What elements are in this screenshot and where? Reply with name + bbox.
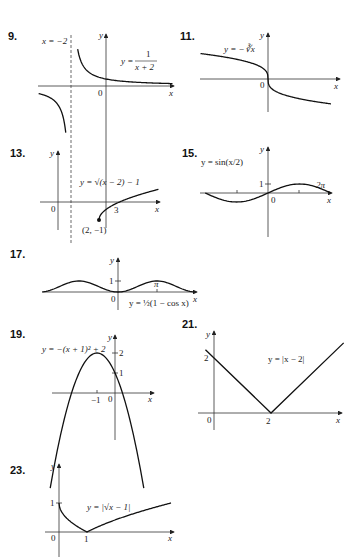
x-tick-label: 1 [84, 534, 89, 544]
x-axis-label: x [326, 195, 331, 205]
x-axis-label: x [168, 88, 173, 98]
x-axis-label: x [192, 294, 197, 304]
y-axis-label: y [98, 30, 103, 40]
graph-19: 19. y x 0 2 1 −1 y = −(x + 1)² + 2 [10, 328, 154, 488]
y-tick-label: 1 [50, 498, 55, 508]
y-axis-label: y [259, 144, 264, 154]
x-axis-label: x [154, 204, 159, 214]
y-tick-label: 1 [119, 368, 124, 378]
graph-23: 23. y x 0 1 1 y = |√x − 1| [10, 461, 174, 557]
origin-label: 0 [51, 204, 56, 214]
equation-label: y = sin(x/2) [201, 157, 243, 167]
x-tick-label: 2 [266, 416, 271, 426]
problem-number: 13. [10, 147, 25, 159]
graph-13: 13. y x 0 3 y = √(x − 2) − 1 (2, −1) [10, 147, 160, 235]
y-axis-label: y [50, 461, 55, 471]
equation-numerator: 1 [146, 49, 151, 59]
origin-label: 0 [260, 80, 265, 90]
equation-denominator: x + 2 [134, 62, 155, 72]
problem-number: 15. [182, 147, 197, 159]
problem-number: 17. [10, 248, 25, 260]
x-tick-label: −1 [91, 395, 101, 405]
curve [99, 189, 158, 220]
origin-label: 0 [207, 415, 212, 425]
problem-number: 19. [10, 328, 25, 340]
figure-canvas: 9. y x 0 x = −2 y = 1 x + 2 11. y x 0 y … [0, 0, 353, 557]
endpoint-label: (2, −1) [82, 225, 107, 235]
origin-label: 0 [51, 533, 56, 543]
problem-number: 21. [182, 318, 197, 330]
y-axis-label: y [49, 148, 54, 158]
y-tick-label: 1 [259, 179, 264, 189]
y-tick-label: 2 [119, 348, 124, 358]
origin-label: 0 [271, 195, 276, 205]
graph-11: 11. y x 0 y = −∛x [180, 30, 340, 112]
origin-label: 0 [108, 394, 113, 404]
curve [50, 353, 144, 488]
x-tick-label: 3 [114, 205, 119, 215]
equation-label: y = −∛x [223, 43, 255, 54]
equation-label: y = ½(1 − cos x) [129, 298, 189, 308]
x-axis-label: x [147, 394, 152, 404]
y-axis-label: y [109, 255, 114, 265]
graph-15: 15. y x 0 1 2π y = sin(x/2) [182, 144, 332, 237]
y-axis-label: y [205, 329, 210, 339]
equation-label: y = √(x − 2) − 1 [79, 177, 140, 187]
equation-lhs: y = [120, 56, 133, 66]
x-axis-label: x [167, 533, 172, 543]
graph-21: 21. y x 0 2 2 y = |x − 2| [182, 318, 344, 430]
equation-label: y = |x − 2| [268, 354, 304, 364]
y-tick-label: 2 [204, 353, 209, 363]
problem-number: 23. [10, 464, 25, 476]
problem-number: 11. [180, 30, 195, 42]
y-axis-label: y [259, 30, 264, 40]
y-axis-label: y [107, 332, 112, 342]
graph-17: 17. y x 0 1 π y = ½(1 − cos x) [10, 248, 197, 310]
equation-label: y = |√x − 1| [86, 502, 131, 512]
curve-left-branch [39, 94, 66, 133]
origin-label: 0 [111, 294, 116, 304]
y-tick-label: 1 [109, 276, 114, 286]
origin-label: 0 [98, 88, 103, 98]
problem-number: 9. [8, 30, 17, 42]
x-axis-label: x [335, 415, 340, 425]
asymptote-label: x = −2 [41, 36, 68, 46]
x-axis-label: x [333, 81, 338, 91]
graph-9: 9. y x 0 x = −2 y = 1 x + 2 [8, 30, 174, 245]
curve-right-branch [78, 49, 173, 83]
